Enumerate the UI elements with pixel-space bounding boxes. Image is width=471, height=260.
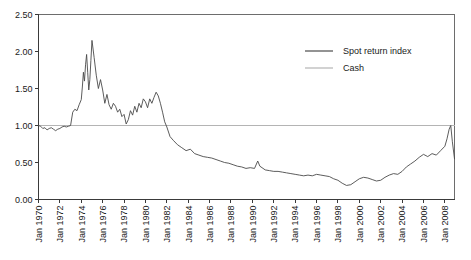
x-tick-label: Jan 2006 bbox=[419, 206, 429, 243]
y-axis-ticks: 0.000.501.001.502.002.50 bbox=[15, 10, 39, 205]
series-line-spot-return-index bbox=[39, 40, 455, 185]
x-tick-label: Jan 2000 bbox=[355, 206, 365, 243]
x-tick-label: Jan 1982 bbox=[162, 206, 172, 243]
legend-label: Cash bbox=[343, 63, 364, 73]
x-tick-label: Jan 1970 bbox=[34, 206, 44, 243]
x-tick-label: Jan 1998 bbox=[333, 206, 343, 243]
y-tick-label: 1.50 bbox=[15, 84, 33, 94]
x-tick-label: Jan 1986 bbox=[205, 206, 215, 243]
x-tick-label: Jan 1990 bbox=[248, 206, 258, 243]
chart-legend: Spot return indexCash bbox=[305, 46, 412, 73]
line-chart: 0.000.501.001.502.002.50 Jan 1970Jan 197… bbox=[0, 0, 471, 260]
data-series-group bbox=[39, 40, 455, 185]
y-tick-label: 2.50 bbox=[15, 10, 33, 20]
axis-lines bbox=[39, 15, 455, 200]
y-tick-label: 0.00 bbox=[15, 195, 33, 205]
x-tick-label: Jan 2004 bbox=[397, 206, 407, 243]
x-tick-label: Jan 1980 bbox=[141, 206, 151, 243]
x-tick-label: Jan 2008 bbox=[440, 206, 450, 243]
x-tick-label: Jan 1992 bbox=[269, 206, 279, 243]
x-tick-label: Jan 1996 bbox=[312, 206, 322, 243]
x-tick-label: Jan 2002 bbox=[376, 206, 386, 243]
x-tick-label: Jan 1988 bbox=[226, 206, 236, 243]
x-tick-label: Jan 1978 bbox=[119, 206, 129, 243]
chart-container: 0.000.501.001.502.002.50 Jan 1970Jan 197… bbox=[0, 0, 471, 260]
x-tick-label: Jan 1974 bbox=[77, 206, 87, 243]
y-tick-label: 1.00 bbox=[15, 121, 33, 131]
plot-frame-border bbox=[39, 15, 455, 200]
x-tick-label: Jan 1976 bbox=[98, 206, 108, 243]
x-tick-label: Jan 1984 bbox=[184, 206, 194, 243]
x-tick-label: Jan 1972 bbox=[55, 206, 65, 243]
x-tick-label: Jan 1994 bbox=[290, 206, 300, 243]
y-tick-label: 0.50 bbox=[15, 158, 33, 168]
x-axis-ticks: Jan 1970Jan 1972Jan 1974Jan 1976Jan 1978… bbox=[34, 200, 450, 243]
plot-frame bbox=[39, 15, 455, 200]
y-tick-label: 2.00 bbox=[15, 47, 33, 57]
legend-label: Spot return index bbox=[343, 46, 412, 56]
